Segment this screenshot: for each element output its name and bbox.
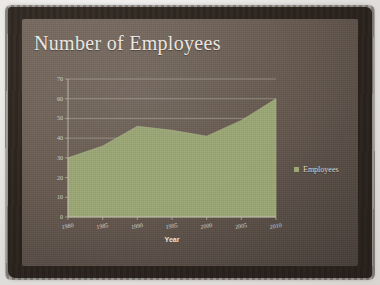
svg-text:1980: 1980 [61,222,74,230]
chart-area: 010203040506070 198019851990199520002005… [36,69,286,244]
presentation-slide: Number of Employees 010203040506070 1980… [22,19,358,266]
y-axis-tick-labels: 010203040506070 [57,76,63,220]
svg-text:30: 30 [57,155,63,161]
svg-text:1985: 1985 [96,222,109,230]
page-title: Number of Employees [34,32,221,55]
svg-text:1990: 1990 [131,222,144,230]
svg-text:0: 0 [60,214,63,220]
photo-background: Number of Employees 010203040506070 1980… [0,0,380,285]
area-chart-svg: 010203040506070 198019851990199520002005… [36,69,286,244]
x-axis-title: Year [165,236,180,243]
svg-text:20: 20 [57,175,63,181]
svg-text:40: 40 [57,135,63,141]
x-axis-tick-marks [68,217,276,220]
svg-text:60: 60 [57,96,63,102]
svg-text:50: 50 [57,115,63,121]
chart-legend: Employees [294,165,339,174]
svg-text:70: 70 [57,76,63,82]
square-marker-icon [294,167,299,172]
x-axis-tick-labels: 1980198519901995200020052010 [61,222,282,230]
svg-text:2010: 2010 [269,222,282,230]
svg-text:2005: 2005 [235,222,248,230]
svg-text:1995: 1995 [165,222,178,230]
series-area-employees [68,99,276,217]
svg-text:2000: 2000 [200,222,213,230]
svg-text:10: 10 [57,194,63,200]
legend-label-employees: Employees [303,165,339,174]
